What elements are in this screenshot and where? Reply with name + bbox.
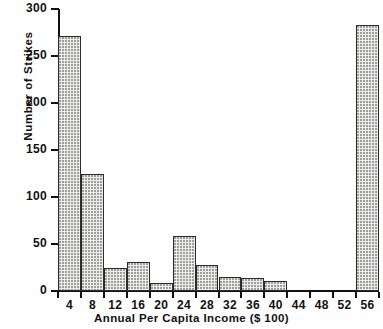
bar — [219, 277, 242, 291]
bar — [196, 265, 219, 291]
bar — [104, 268, 127, 291]
x-axis-title: Annual Per Capita Income ($ 100) — [0, 312, 383, 324]
bar — [356, 25, 379, 291]
bar — [173, 236, 196, 291]
bar — [264, 281, 287, 291]
bar — [241, 278, 264, 291]
strikes-histogram-figure: Number of Strikes 300250200150100500 481… — [0, 0, 383, 329]
y-tick-label: 0 — [40, 283, 47, 297]
x-tick-mark — [378, 292, 380, 298]
y-tick-label: 200 — [26, 95, 47, 109]
x-tick-label: 56 — [355, 298, 381, 312]
plot-area: 300250200150100500 481216202428323640444… — [0, 0, 383, 329]
bar — [150, 283, 173, 291]
bar — [81, 174, 104, 292]
bar — [58, 36, 81, 291]
bar — [127, 262, 150, 291]
y-tick-label: 50 — [33, 236, 47, 250]
y-tick-label: 100 — [26, 189, 47, 203]
y-tick-label: 300 — [26, 1, 47, 15]
y-tick-label: 150 — [26, 142, 47, 156]
y-tick-mark — [51, 8, 59, 10]
y-tick-label: 250 — [26, 48, 47, 62]
